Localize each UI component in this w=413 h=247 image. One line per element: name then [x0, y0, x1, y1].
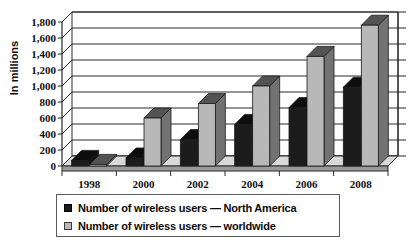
plot-floor-front-edge: [62, 166, 388, 171]
bar-2000-series-2: [144, 108, 171, 166]
x-axis-tick-label-2004: 2004: [227, 178, 277, 190]
x-axis-tick-label-2008: 2008: [336, 178, 386, 190]
wireless-users-bar-chart: In millions 1,8001,6001,4001,2001,000800…: [0, 0, 413, 247]
chart-legend: Number of wireless users — North America…: [56, 194, 340, 237]
legend-label-worldwide: Number of wireless users — worldwide: [78, 220, 276, 232]
gridline-depth-edge: [62, 44, 72, 54]
x-axis-tick-label-2002: 2002: [173, 178, 223, 190]
legend-swatch-icon-worldwide: [64, 222, 72, 230]
legend-item-north-america: Number of wireless users — North America: [64, 199, 339, 216]
legend-swatch-icon-north-america: [64, 204, 72, 212]
gridline-depth-edge: [62, 60, 72, 70]
gridline-depth-edge: [62, 92, 72, 102]
bar-2002-series-2: [198, 94, 225, 166]
gridline-depth-edge: [62, 140, 72, 150]
gridline-depth-edge: [62, 124, 72, 134]
legend-label-north-america: Number of wireless users — North America: [78, 202, 296, 214]
x-axis-tick-label-2006: 2006: [282, 178, 332, 190]
x-axis-tick-label-1998: 1998: [64, 178, 114, 190]
x-axis-tick-label-2000: 2000: [119, 178, 169, 190]
bar-2006-series-2: [307, 46, 334, 166]
gridline-depth-edge: [62, 12, 72, 22]
bar-2004-series-2: [253, 76, 280, 166]
gridline-depth-edge: [62, 28, 72, 38]
gridline-depth-edge: [62, 108, 72, 118]
gridline-depth-edge: [62, 76, 72, 86]
bar-2008-series-2: [361, 15, 388, 166]
legend-item-worldwide: Number of wireless users — worldwide: [64, 217, 339, 234]
